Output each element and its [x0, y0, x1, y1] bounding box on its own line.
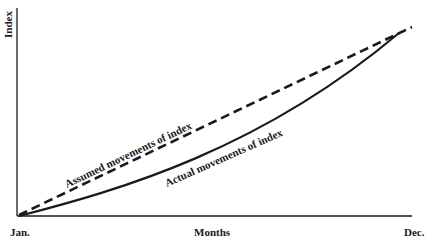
y-axis-label: Index — [2, 11, 14, 38]
index-movement-chart: Index Jan. Months Dec. Assumed movements… — [0, 0, 438, 241]
x-tick-start: Jan. — [10, 226, 30, 238]
x-axis-label: Months — [194, 226, 231, 238]
assumed-movements-line — [19, 27, 412, 215]
x-tick-end: Dec. — [404, 226, 425, 238]
